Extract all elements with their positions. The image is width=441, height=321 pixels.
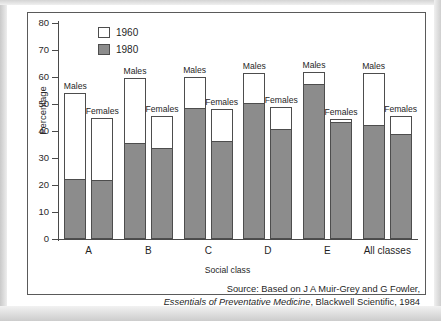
source-line-2: Essentials of Preventative Medicine, Bla… — [58, 296, 420, 309]
bar-segment-1980 — [185, 108, 205, 238]
bar-segment-1980 — [304, 84, 324, 238]
bar-e-males — [303, 72, 325, 239]
bar-d-females — [270, 107, 292, 239]
y-axis-tick-label: 20 — [29, 180, 49, 190]
chart-page: Percentage 01020304050607080 1960 1980 M… — [0, 0, 441, 321]
y-axis-tick — [52, 50, 58, 51]
bar-segment-1980 — [244, 103, 264, 238]
bar-segment-1980 — [65, 179, 85, 238]
y-axis-tick-label: 40 — [29, 126, 49, 136]
y-axis-tick-label: 60 — [29, 72, 49, 82]
x-axis-label-all-classes: All classes — [364, 246, 411, 256]
bar-segment-1980 — [212, 141, 232, 238]
y-axis-tick-label: 10 — [29, 207, 49, 217]
bar-segment-1980 — [152, 148, 172, 238]
bar-b-males — [124, 78, 146, 239]
x-axis-label-e: E — [324, 246, 331, 256]
bar-a-males — [64, 93, 86, 239]
bar-e-females — [330, 119, 352, 239]
bar-segment-1980 — [125, 143, 145, 238]
page-edge-top — [0, 0, 441, 5]
y-axis-tick — [52, 23, 58, 24]
y-axis-tick-label: 70 — [29, 45, 49, 55]
y-axis-tick — [52, 77, 58, 78]
bar-caption-males: Males — [183, 66, 206, 75]
bar-caption-females: Females — [325, 108, 358, 117]
bar-segment-1980 — [331, 122, 351, 238]
bar-segment-1980 — [92, 180, 112, 238]
y-axis-tick — [52, 158, 58, 159]
x-axis-line — [58, 239, 418, 240]
bar-caption-males: Males — [124, 67, 147, 76]
source-caption: Source: Based on J A Muir-Grey and G Fow… — [58, 283, 420, 310]
bar-all-classes-females — [390, 116, 412, 239]
page-edge-right — [434, 0, 441, 321]
x-axis-label-c: C — [205, 246, 212, 256]
y-axis-tick — [52, 239, 58, 240]
x-axis-label-b: B — [145, 246, 152, 256]
bar-caption-females: Females — [265, 96, 298, 105]
bar-caption-males: Males — [243, 62, 266, 71]
plot-area: MalesFemalesMalesFemalesMalesFemalesMale… — [59, 23, 417, 239]
bar-caption-females: Females — [86, 107, 119, 116]
bar-c-males — [184, 77, 206, 239]
bar-b-females — [151, 116, 173, 239]
bar-caption-females: Females — [205, 98, 238, 107]
bar-c-females — [211, 109, 233, 239]
chart-frame: Percentage 01020304050607080 1960 1980 M… — [27, 12, 426, 295]
y-axis-tick-labels: 01020304050607080 — [28, 13, 49, 253]
bar-segment-1980 — [391, 134, 411, 238]
y-axis-tick — [52, 212, 58, 213]
y-axis-tick-label: 30 — [29, 153, 49, 163]
bar-caption-males: Males — [64, 82, 87, 91]
source-work-title: Essentials of Preventative Medicine — [164, 297, 311, 307]
bar-caption-males: Males — [362, 62, 385, 71]
bar-caption-males: Males — [303, 61, 326, 70]
y-axis-tick-label: 0 — [29, 234, 49, 244]
x-axis-label-a: A — [85, 246, 92, 256]
y-axis-tick-label: 50 — [29, 99, 49, 109]
bar-caption-females: Females — [384, 105, 417, 114]
y-axis-tick — [52, 185, 58, 186]
bar-all-classes-males — [363, 73, 385, 239]
bar-d-males — [243, 73, 265, 239]
bar-a-females — [91, 118, 113, 240]
x-axis-label-d: D — [264, 246, 271, 256]
bar-segment-1980 — [364, 125, 384, 238]
y-axis-tick — [52, 104, 58, 105]
y-axis-tick-label: 80 — [29, 18, 49, 28]
x-axis-title: Social class — [28, 265, 427, 275]
bar-caption-females: Females — [146, 105, 179, 114]
source-line-1: Source: Based on J A Muir-Grey and G Fow… — [58, 283, 420, 296]
bar-segment-1980 — [271, 129, 291, 238]
page-edge-left — [0, 0, 7, 321]
source-publisher: , Blackwell Scientific, 1984 — [310, 297, 420, 307]
y-axis-tick — [52, 131, 58, 132]
